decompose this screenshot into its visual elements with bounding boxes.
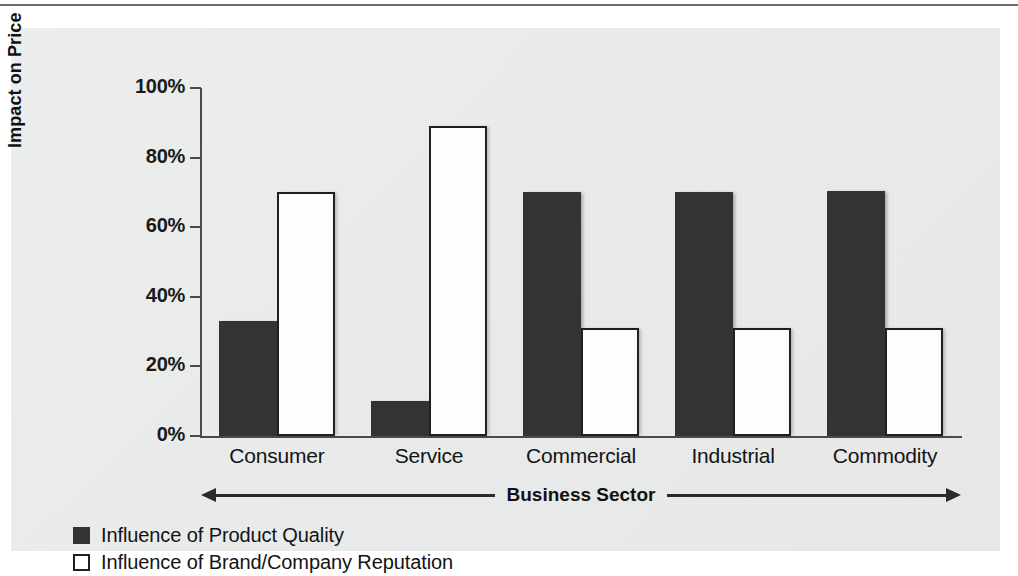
bar-group [523, 88, 639, 436]
legend-item[interactable]: Influence of Product Quality [73, 522, 453, 549]
legend-swatch-dark [73, 527, 90, 544]
y-axis-tick-mark [190, 87, 201, 89]
bar-brand-reputation[interactable] [429, 126, 487, 436]
legend-label: Influence of Brand/Company Reputation [101, 551, 453, 574]
y-axis-tick-mark [190, 296, 201, 298]
bar-product-quality[interactable] [371, 401, 429, 436]
y-axis-title: Impact on Price [5, 12, 26, 148]
legend-item[interactable]: Influence of Brand/Company Reputation [73, 549, 453, 576]
y-axis-tick-mark [190, 157, 201, 159]
y-axis-tick-label: 60% [45, 214, 185, 237]
bar-group [675, 88, 791, 436]
plot-area [201, 88, 961, 436]
y-axis-tick-mark [190, 226, 201, 228]
x-axis-category-label: Commodity [785, 444, 985, 468]
y-axis-tick-label: 20% [45, 353, 185, 376]
y-axis-tick-mark [190, 435, 201, 437]
y-axis-tick-label: 100% [45, 75, 185, 98]
x-axis-title: Business Sector [495, 484, 668, 506]
right-arrow-icon [667, 485, 961, 505]
chart-legend: Influence of Product QualityInfluence of… [73, 522, 453, 576]
bar-group [827, 88, 943, 436]
y-axis-tick-label: 80% [45, 145, 185, 168]
bar-group [219, 88, 335, 436]
bar-brand-reputation[interactable] [581, 328, 639, 436]
bar-group [371, 88, 487, 436]
y-axis-tick-mark [190, 365, 201, 367]
bar-product-quality[interactable] [827, 191, 885, 436]
bar-brand-reputation[interactable] [885, 328, 943, 436]
x-axis-title-row: Business Sector [201, 480, 961, 510]
bar-brand-reputation[interactable] [733, 328, 791, 436]
bar-product-quality[interactable] [219, 321, 277, 436]
bar-product-quality[interactable] [523, 192, 581, 436]
y-axis-tick-label: 0% [45, 423, 185, 446]
x-axis-line [200, 436, 962, 438]
chart-figure-panel: Impact on Price 0%20%40%60%80%100% Consu… [11, 28, 1000, 551]
page-top-rule [0, 4, 1018, 6]
left-arrow-icon [201, 485, 495, 505]
bar-brand-reputation[interactable] [277, 192, 335, 436]
bar-product-quality[interactable] [675, 192, 733, 436]
legend-label: Influence of Product Quality [101, 524, 344, 547]
y-axis-tick-label: 40% [45, 284, 185, 307]
legend-swatch-light [73, 554, 90, 571]
